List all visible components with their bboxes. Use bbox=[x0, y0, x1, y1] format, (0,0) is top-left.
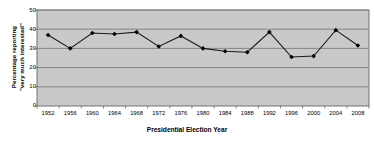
x-tick-label: 1972 bbox=[147, 110, 171, 117]
x-tick-label: 1952 bbox=[36, 110, 60, 117]
x-tick-label: 1988 bbox=[235, 110, 259, 117]
x-tick-label: 1968 bbox=[125, 110, 149, 117]
x-axis-tick-labels: 1952195619601964196819721976198019841988… bbox=[0, 0, 374, 141]
x-axis-title: Presidential Election Year bbox=[0, 126, 374, 133]
x-tick-label: 1980 bbox=[191, 110, 215, 117]
x-tick-label: 1996 bbox=[280, 110, 304, 117]
x-tick-label: 2008 bbox=[346, 110, 370, 117]
x-tick-label: 1976 bbox=[169, 110, 193, 117]
x-tick-label: 1960 bbox=[80, 110, 104, 117]
x-tick-label: 1964 bbox=[102, 110, 126, 117]
x-tick-label: 1992 bbox=[257, 110, 281, 117]
x-tick-label: 2000 bbox=[302, 110, 326, 117]
x-tick-label: 1956 bbox=[58, 110, 82, 117]
x-tick-label: 1984 bbox=[213, 110, 237, 117]
chart-container: Percentage reporting "very much interest… bbox=[0, 0, 374, 141]
x-tick-label: 2004 bbox=[324, 110, 348, 117]
